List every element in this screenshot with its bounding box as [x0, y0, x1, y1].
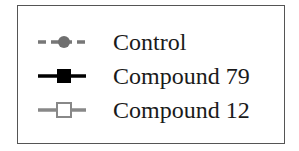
legend-label-compound-79: Compound 79 — [113, 63, 250, 89]
legend-entry-control: Control — [18, 27, 284, 57]
dashed-line-circle-marker-icon — [36, 27, 88, 57]
legend-label-compound-12: Compound 12 — [113, 97, 250, 123]
solid-line-open-square-marker-icon — [36, 95, 88, 125]
legend-entry-compound-79: Compound 79 — [18, 61, 284, 91]
legend-box: Control Compound 79 Compound 12 — [17, 5, 285, 144]
legend-entry-compound-12: Compound 12 — [18, 95, 284, 125]
legend-label-control: Control — [113, 29, 186, 55]
solid-line-filled-square-marker-icon — [36, 61, 88, 91]
